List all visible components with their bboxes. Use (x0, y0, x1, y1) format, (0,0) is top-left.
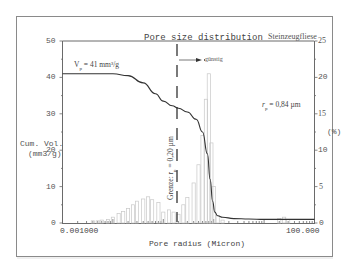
y-left-tick-40: 40 (46, 73, 56, 81)
y-right-tick-5: 5 (319, 183, 323, 191)
y-left-label-line1: Cum. Vol. (20, 140, 63, 148)
y-left-tick-50: 50 (46, 37, 56, 45)
grenze-text: Grenze: r (166, 172, 175, 200)
grenze-subscript: p (172, 169, 177, 172)
grenze-value: = 0,20 µm (166, 136, 175, 169)
vp-value: = 41 mm³/g (82, 60, 119, 69)
rp-value: = 0,84 µm (267, 100, 300, 109)
y-right-tick-15: 15 (318, 110, 326, 118)
x-min-label: 0.001000 (60, 227, 98, 235)
y-right-tick-20: 20 (318, 73, 328, 81)
y-left-label-line2: (mm3/g) (28, 150, 62, 158)
y-left-tick-10: 10 (46, 183, 56, 191)
x-max-label: 100.000 (286, 227, 320, 235)
y-right-tick-0: 0 (319, 219, 324, 227)
total-volume-annotation: Vp = 41 mm³/g (74, 61, 119, 71)
boundary-annotation: Grenze: rp = 0,20 µm (167, 136, 177, 200)
chart-title: Pore size distribution (144, 34, 263, 43)
y-right-tick-10: 10 (318, 146, 328, 154)
y-left-tick-20: 20 (46, 146, 56, 154)
y-right-label: (%) (327, 128, 341, 136)
x-axis-label: Pore radius (Micron) (149, 240, 245, 248)
y-right-tick-25: 25 (318, 37, 326, 45)
y-left-tick-0: 0 (51, 219, 56, 227)
y-left-tick-30: 30 (46, 110, 56, 118)
favourable-label: günstig (205, 56, 223, 62)
mean-radius-annotation: rp = 0,84 µm (262, 101, 301, 111)
sample-label: Steinzeugfliese (268, 33, 317, 41)
